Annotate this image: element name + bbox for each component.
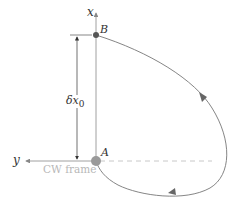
y-axis-label: y (12, 153, 20, 167)
frame-label: CW frame (43, 163, 97, 175)
direction-arrow-icon (168, 188, 176, 195)
point-b (93, 32, 99, 38)
point-a-label: A (100, 146, 109, 159)
point-b-label: B (99, 23, 108, 36)
dimension-label: δx0 (66, 94, 85, 109)
relative-motion-diagram: x y CW frame δx0 B A (0, 0, 239, 206)
point-a (91, 156, 101, 166)
x-axis-label: x (87, 5, 94, 19)
trajectory-curve (96, 35, 227, 196)
direction-arrow-icon (199, 92, 207, 102)
